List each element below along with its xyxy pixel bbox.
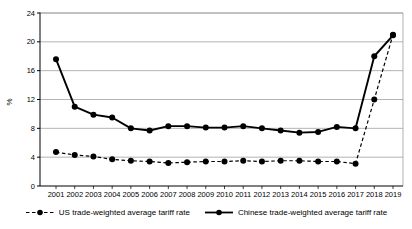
x-tick-label: 2015 — [310, 190, 327, 199]
data-point-chinese-2014 — [296, 130, 302, 136]
x-tick-label: 2008 — [179, 190, 196, 199]
data-point-us-2009 — [203, 158, 209, 164]
x-tick-label: 2009 — [197, 190, 214, 199]
y-tick-label: 20 — [27, 37, 35, 46]
legend-item-chinese: Chinese trade-weighted average tariff ra… — [204, 208, 387, 217]
x-tick-label: 2018 — [366, 190, 383, 199]
x-tick-label: 2013 — [272, 190, 289, 199]
solid-line-marker-icon — [204, 208, 234, 217]
data-point-us-2012 — [259, 158, 265, 164]
legend-item-us: US trade-weighted average tariff rate — [25, 208, 190, 217]
data-point-us-2015 — [315, 158, 321, 164]
data-point-chinese-2017 — [353, 125, 359, 131]
x-tick-label: 2014 — [291, 190, 308, 199]
data-point-chinese-2016 — [334, 124, 340, 130]
data-point-chinese-2005 — [128, 125, 134, 131]
data-point-chinese-2013 — [278, 127, 284, 133]
data-point-us-2010 — [222, 158, 228, 164]
x-tick-label: 2012 — [254, 190, 271, 199]
data-point-chinese-2002 — [72, 104, 78, 110]
x-tick-label: 2007 — [160, 190, 177, 199]
data-point-chinese-2006 — [147, 127, 153, 133]
chart-legend: US trade-weighted average tariff rate Ch… — [0, 203, 412, 221]
data-point-us-2016 — [334, 158, 340, 164]
data-point-chinese-2012 — [259, 125, 265, 131]
x-tick-label: 2016 — [328, 190, 345, 199]
tariff-rate-chart: % 04812162024200120022003200420052006200… — [0, 0, 412, 229]
data-point-us-2001 — [53, 149, 59, 155]
data-point-chinese-2007 — [165, 123, 171, 129]
data-point-chinese-2008 — [184, 123, 190, 129]
y-tick-label: 16 — [27, 66, 35, 75]
y-axis-title: % — [5, 98, 14, 105]
data-point-us-2007 — [165, 160, 171, 166]
x-tick-label: 2004 — [104, 190, 121, 199]
legend-label-chinese: Chinese trade-weighted average tariff ra… — [238, 208, 387, 217]
x-tick-label: 2002 — [66, 190, 83, 199]
y-tick-label: 24 — [27, 9, 35, 18]
data-point-chinese-2019 — [390, 32, 396, 38]
data-point-chinese-2018 — [371, 53, 377, 59]
y-tick-label: 12 — [27, 95, 35, 104]
plot-area: 0481216202420012002200320042005200620072… — [27, 9, 403, 199]
data-point-chinese-2015 — [315, 129, 321, 135]
series-line-chinese — [56, 35, 393, 132]
x-tick-label: 2001 — [48, 190, 65, 199]
data-point-us-2005 — [128, 158, 134, 164]
legend-label-us: US trade-weighted average tariff rate — [59, 208, 190, 217]
data-point-chinese-2011 — [240, 123, 246, 129]
data-point-us-2018 — [371, 97, 377, 103]
y-tick-label: 4 — [31, 153, 35, 162]
y-tick-label: 8 — [31, 124, 35, 133]
data-point-chinese-2010 — [222, 125, 228, 131]
x-tick-label: 2005 — [123, 190, 140, 199]
data-point-us-2014 — [296, 158, 302, 164]
data-point-chinese-2004 — [109, 115, 115, 121]
x-tick-label: 2006 — [141, 190, 158, 199]
data-point-us-2002 — [72, 152, 78, 158]
x-tick-label: 2019 — [385, 190, 402, 199]
line-chart-plot: % 04812162024200120022003200420052006200… — [0, 0, 412, 202]
data-point-us-2004 — [109, 156, 115, 162]
x-tick-label: 2010 — [216, 190, 233, 199]
dashed-line-marker-icon — [25, 208, 55, 217]
x-tick-label: 2017 — [347, 190, 364, 199]
x-tick-label: 2003 — [85, 190, 102, 199]
data-point-chinese-2003 — [90, 112, 96, 118]
data-point-us-2013 — [278, 158, 284, 164]
data-point-chinese-2009 — [203, 125, 209, 131]
y-tick-label: 0 — [31, 182, 35, 191]
data-point-us-2003 — [90, 153, 96, 159]
data-point-us-2008 — [184, 159, 190, 165]
data-point-us-2017 — [353, 161, 359, 167]
x-tick-label: 2011 — [235, 190, 251, 199]
data-point-chinese-2001 — [53, 56, 59, 62]
data-point-us-2006 — [147, 158, 153, 164]
data-point-us-2011 — [240, 158, 246, 164]
